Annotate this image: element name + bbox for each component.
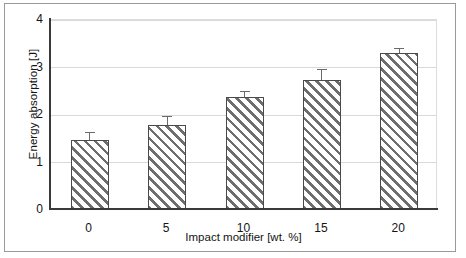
error-bar-stem-15 [321,69,322,80]
y-tick-label-2: 2 [21,108,43,120]
error-bar-cap-0 [85,132,95,133]
bar-chart: Energy absorption [J] 01234 05101520 Imp… [0,0,466,258]
bar-20[interactable] [380,53,418,210]
y-tick-label-4: 4 [21,13,43,25]
y-tick-label-3: 3 [21,61,43,73]
error-bar-cap-10 [240,91,250,92]
bar-15[interactable] [303,80,341,210]
plot-area [50,19,437,209]
error-bar-stem-0 [89,132,90,140]
error-bar-stem-5 [167,116,168,125]
error-bar-cap-15 [317,69,327,70]
bar-5[interactable] [148,125,186,210]
y-tick-label-1: 1 [21,156,43,168]
y-axis-tick-labels: 01234 [21,0,43,258]
error-bar-cap-20 [394,48,404,49]
gridline-3 [51,67,436,68]
x-axis-title: Impact modifier [wt. %] [50,231,437,243]
y-tick-label-0: 0 [21,203,43,215]
x-axis-line [49,208,438,210]
gridline-4 [51,20,436,21]
bar-0[interactable] [71,140,109,210]
y-axis-line [49,18,51,210]
error-bar-cap-5 [162,116,172,117]
bar-10[interactable] [226,97,264,210]
